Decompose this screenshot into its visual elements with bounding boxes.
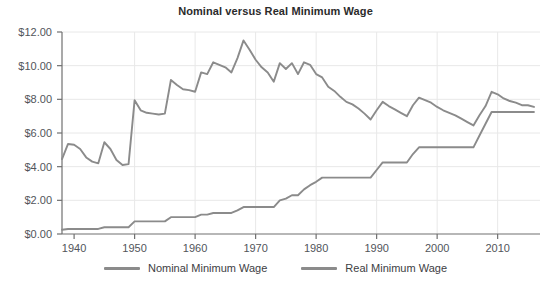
legend-label-real: Real Minimum Wage xyxy=(345,262,447,274)
legend-label-nominal: Nominal Minimum Wage xyxy=(148,262,267,274)
x-axis-tick-label: 1940 xyxy=(62,242,86,254)
y-axis-tick-label: $12.00 xyxy=(18,26,52,38)
legend-item-real[interactable]: Real Minimum Wage xyxy=(301,262,447,274)
chart-legend: Nominal Minimum Wage Real Minimum Wage xyxy=(0,262,551,274)
y-axis-labels: $12.00$10.00$8.00$6.00$4.00$2.00$0.00 xyxy=(18,26,52,240)
x-tick-group xyxy=(74,234,498,239)
legend-swatch-nominal xyxy=(104,267,140,270)
y-axis-tick-label: $2.00 xyxy=(24,194,52,206)
minimum-wage-chart: Nominal versus Real Minimum Wage $12.00$… xyxy=(0,0,551,291)
x-axis-tick-label: 1970 xyxy=(243,242,267,254)
real-minimum-wage-line xyxy=(62,40,534,165)
x-axis-tick-label: 1990 xyxy=(364,242,388,254)
y-axis-tick-label: $4.00 xyxy=(24,161,52,173)
x-axis-tick-label: 1960 xyxy=(183,242,207,254)
y-axis-tick-label: $6.00 xyxy=(24,127,52,139)
x-axis-tick-label: 1980 xyxy=(304,242,328,254)
y-axis-tick-label: $0.00 xyxy=(24,228,52,240)
x-axis-tick-label: 2010 xyxy=(485,242,509,254)
x-axis-tick-label: 2000 xyxy=(425,242,449,254)
legend-swatch-real xyxy=(301,267,337,270)
x-axis-tick-label: 1950 xyxy=(122,242,146,254)
y-axis-tick-label: $10.00 xyxy=(18,60,52,72)
x-axis-labels: 19401950196019701980199020002010 xyxy=(62,242,510,254)
legend-item-nominal[interactable]: Nominal Minimum Wage xyxy=(104,262,267,274)
y-axis-tick-label: $8.00 xyxy=(24,93,52,105)
nominal-minimum-wage-line xyxy=(62,112,534,230)
chart-plot-area: $12.00$10.00$8.00$6.00$4.00$2.00$0.00 19… xyxy=(0,0,551,291)
y-tick-group xyxy=(57,32,62,234)
